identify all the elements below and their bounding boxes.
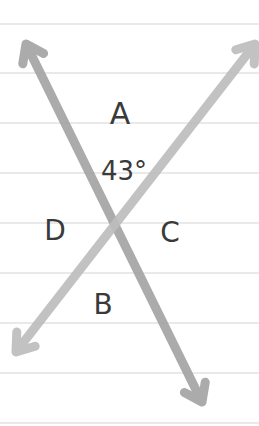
angle-label-b: B: [93, 288, 112, 321]
angle-diagram: A 43° D C B: [0, 0, 259, 426]
angle-label-d: D: [44, 214, 66, 247]
angle-measure-label: 43°: [101, 156, 147, 186]
angle-label-a: A: [110, 96, 131, 131]
angle-label-c: C: [160, 216, 180, 249]
